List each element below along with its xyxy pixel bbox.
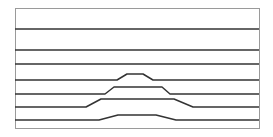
line-5 xyxy=(15,87,259,94)
line-6 xyxy=(15,99,259,107)
line-4 xyxy=(15,74,259,80)
layered-lines-diagram xyxy=(0,0,273,137)
diagram-lines xyxy=(15,29,259,120)
diagram-frame xyxy=(16,9,260,129)
line-7 xyxy=(15,115,259,120)
